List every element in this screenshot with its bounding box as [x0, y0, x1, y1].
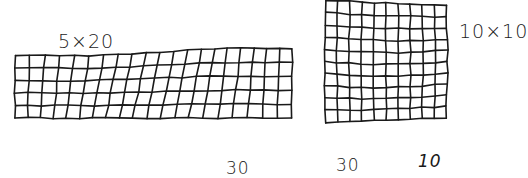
distorted-grid-5x20	[14, 48, 292, 119]
distorted-grid-10x10	[324, 1, 448, 123]
bottom-number-1: 30	[226, 158, 250, 178]
grid-label-5x20: 5×20	[58, 30, 114, 52]
grid-label-10x10: 10×10	[459, 20, 528, 42]
bottom-number-2: 30	[336, 155, 360, 175]
bottom-number-3: 10	[418, 151, 442, 171]
